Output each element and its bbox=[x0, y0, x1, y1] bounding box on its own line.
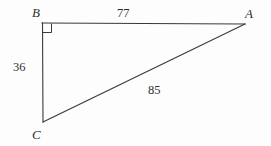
side-CA-line bbox=[43, 24, 245, 122]
side-BC-line bbox=[43, 23, 44, 122]
triangle-drawing bbox=[0, 0, 271, 146]
side-BA-line bbox=[42, 23, 245, 24]
side-length-label-bc: 36 bbox=[13, 61, 26, 74]
vertex-label-b: B bbox=[32, 6, 40, 19]
geometry-figure: B A C 77 36 85 bbox=[0, 0, 271, 146]
side-length-label-ca: 85 bbox=[148, 84, 161, 97]
side-length-label-ba: 77 bbox=[117, 7, 130, 20]
vertex-label-c: C bbox=[32, 128, 41, 141]
right-angle-square-icon bbox=[43, 24, 52, 33]
vertex-label-a: A bbox=[245, 7, 253, 20]
